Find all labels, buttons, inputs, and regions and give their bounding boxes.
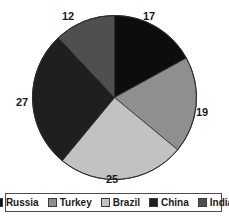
- data-label-turkey: 19: [196, 107, 208, 118]
- legend-swatch-icon: [101, 198, 110, 207]
- legend-swatch-icon: [198, 198, 207, 207]
- pie-chart-svg: [0, 0, 229, 190]
- data-label-russia: 17: [143, 11, 155, 22]
- legend-item-label: India: [210, 198, 229, 208]
- legend-item-russia[interactable]: Russia: [0, 198, 39, 208]
- data-label-brazil: 25: [106, 174, 118, 185]
- legend-swatch-icon: [0, 198, 3, 207]
- legend-item-turkey[interactable]: Turkey: [48, 198, 92, 208]
- legend-item-brazil[interactable]: Brazil: [101, 198, 140, 208]
- chart-legend: RussiaTurkeyBrazilChinaIndia: [5, 193, 222, 212]
- data-label-china: 27: [16, 97, 28, 108]
- pie-chart: 17 19 25 27 12: [0, 0, 229, 190]
- data-label-india: 12: [62, 11, 74, 22]
- legend-item-label: Turkey: [60, 198, 92, 208]
- legend-swatch-icon: [149, 198, 158, 207]
- legend-item-china[interactable]: China: [149, 198, 189, 208]
- pie-slices: [32, 16, 196, 180]
- legend-swatch-icon: [48, 198, 57, 207]
- legend-item-label: China: [161, 198, 189, 208]
- legend-item-label: Russia: [6, 198, 39, 208]
- legend-item-india[interactable]: India: [198, 198, 229, 208]
- legend-item-label: Brazil: [113, 198, 140, 208]
